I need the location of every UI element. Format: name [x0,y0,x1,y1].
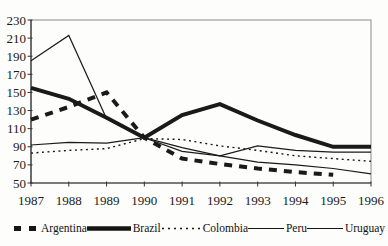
line-chart-figure: 2302101901701501301109070501987198819891… [0,0,388,246]
y-tick-label: 50 [13,176,26,191]
y-tick-label: 90 [13,139,26,154]
legend-label-colombia: Colombia [203,222,248,234]
y-tick-label: 70 [13,157,26,172]
y-tick-label: 190 [7,49,27,64]
legend-label-brazil: Brazil [133,222,161,234]
legend-item-colombia: Colombia [161,222,248,234]
y-tick-label: 110 [7,121,26,136]
x-tick-label: 1994 [282,193,309,208]
thick-solid-line-key-icon [87,224,131,233]
legend-item-uruguay: Uruguay [307,222,385,234]
thin-solid-line-key-icon [248,224,284,233]
legend-item-brazil: Brazil [87,222,161,234]
dotted-line-key-icon [161,224,201,233]
x-tick-label: 1989 [94,193,120,208]
series-line-brazil [31,88,371,147]
x-tick-label: 1988 [56,193,82,208]
legend-label-uruguay: Uruguay [345,222,385,234]
legend-label-argentina: Argentina [41,222,87,234]
thick-dashed-line-key-icon [13,224,39,233]
x-tick-label: 1993 [245,193,271,208]
x-tick-label: 1990 [131,193,157,208]
axis-lines [31,20,371,183]
y-tick-label: 210 [7,31,27,46]
legend-item-peru: Peru [248,222,307,234]
legend-item-argentina: Argentina [13,222,87,234]
x-tick-label: 1991 [169,193,195,208]
series-line-peru [31,35,371,155]
x-tick-label: 1992 [207,193,233,208]
plot-frame [31,20,371,183]
legend-label-peru: Peru [286,222,307,234]
y-tick-label: 150 [7,85,27,100]
y-tick-label: 230 [7,13,27,28]
x-tick-label: 1995 [320,193,346,208]
x-tick-label: 1987 [18,193,45,208]
x-tick-label: 1996 [358,193,385,208]
y-tick-label: 130 [7,103,27,118]
chart-canvas: 2302101901701501301109070501987198819891… [0,0,388,212]
chart-legend: Argentina Brazil Colombia Peru Uruguay [0,222,388,234]
thin-solid-line-key-icon [307,224,343,233]
y-tick-label: 170 [7,67,27,82]
